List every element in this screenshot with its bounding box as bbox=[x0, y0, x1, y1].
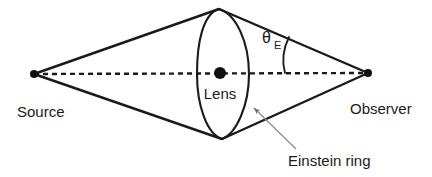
einstein-angle-arc bbox=[283, 37, 289, 73]
upper-light-ray bbox=[34, 9, 368, 74]
einstein-angle-symbol-label: θ bbox=[262, 29, 271, 46]
einstein-ring-diagram: Source Lens Observer Einstein ring θ E bbox=[0, 0, 432, 177]
einstein-angle-subscript-label: E bbox=[274, 39, 281, 51]
lens-label: Lens bbox=[204, 85, 237, 102]
lens-point bbox=[214, 67, 226, 79]
source-point bbox=[30, 70, 38, 78]
optical-axis-dashed-line bbox=[34, 73, 368, 74]
observer-point bbox=[364, 69, 372, 77]
einstein-ring-label: Einstein ring bbox=[288, 152, 371, 169]
diagram-canvas: Source Lens Observer Einstein ring θ E bbox=[0, 0, 432, 177]
observer-label: Observer bbox=[350, 100, 412, 117]
source-label: Source bbox=[17, 103, 65, 120]
